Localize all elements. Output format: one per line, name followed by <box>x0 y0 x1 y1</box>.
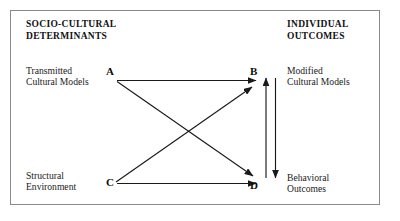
node-letter-a: A <box>106 66 114 77</box>
header-socio-cultural-determinants: SOCIO-CULTURAL DETERMINANTS <box>26 19 116 42</box>
node-label-modified-cultural-models: Modified Cultural Models <box>287 65 350 88</box>
node-label-behavioral-outcomes: Behavioral Outcomes <box>287 172 329 195</box>
node-label-structural-environment: Structural Environment <box>26 170 76 193</box>
node-letter-d: D <box>250 180 258 191</box>
node-label-transmitted-cultural-models: Transmitted Cultural Models <box>26 65 89 88</box>
node-letter-c: C <box>106 177 114 188</box>
node-letter-b: B <box>250 66 257 77</box>
header-individual-outcomes: INDIVIDUAL OUTCOMES <box>287 19 349 42</box>
diagram-canvas: SOCIO-CULTURAL DETERMINANTS INDIVIDUAL O… <box>0 0 400 221</box>
